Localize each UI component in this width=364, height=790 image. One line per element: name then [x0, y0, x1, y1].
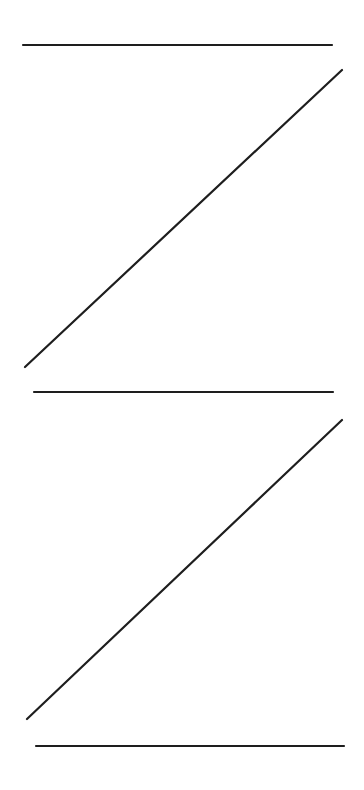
bottom-diagonal-line — [27, 420, 342, 719]
z-shape-bottom — [27, 420, 344, 746]
z-shape-top — [23, 45, 342, 392]
drawing-canvas — [0, 0, 364, 790]
top-diagonal-line — [25, 70, 342, 367]
